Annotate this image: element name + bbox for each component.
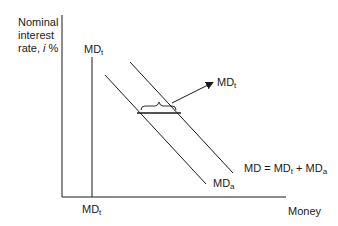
x-axis-label: Money: [288, 205, 321, 218]
y-axis-label-line1: Nominal: [18, 16, 58, 28]
md-a-label: MDa: [213, 177, 235, 190]
label-base: MD = MD: [244, 162, 291, 174]
label-sub: a: [323, 167, 327, 176]
label-mid: + MD: [293, 162, 323, 174]
y-axis-label-line3: rate,: [18, 42, 43, 54]
md-t-top-label: MDt: [84, 43, 103, 56]
label-base: MD: [82, 203, 99, 215]
md-t-bottom-label: MDt: [82, 203, 101, 216]
label-base: MD: [213, 177, 230, 189]
y-axis-label-line2: interest: [18, 29, 54, 41]
md-t-arrow-label: MDt: [217, 76, 236, 89]
label-sub: t: [234, 81, 236, 90]
label-sub: t: [99, 208, 101, 217]
label-base: MD: [217, 76, 234, 88]
label-sub: t: [101, 48, 103, 57]
brace-icon: [141, 102, 176, 110]
shift-arrow: [172, 83, 212, 103]
y-axis-unit: %: [46, 42, 59, 54]
md-total-label: MD = MDt + MDa: [244, 162, 327, 175]
md-a-curve: [105, 75, 206, 184]
label-sub: a: [230, 182, 234, 191]
y-axis-label: Nominal interest rate, i %: [18, 16, 62, 55]
label-base: MD: [84, 43, 101, 55]
